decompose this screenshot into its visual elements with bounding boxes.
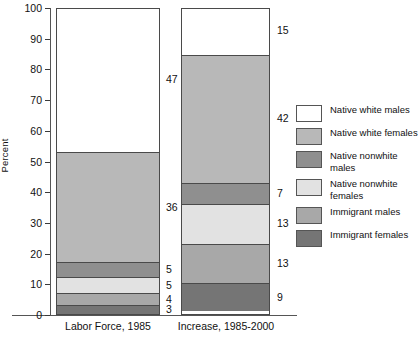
segment-value-label: 13	[277, 218, 289, 229]
legend-item[interactable]: Native white males	[296, 104, 419, 122]
legend-swatch-icon	[296, 128, 322, 145]
legend-swatch-icon	[296, 105, 322, 122]
y-axis-tick-mark	[45, 223, 50, 224]
y-axis-tick-label: 90	[12, 34, 42, 44]
bar-segment[interactable]	[182, 283, 269, 310]
y-axis-tick-label: 80	[12, 64, 42, 74]
legend-item-label: Native white females	[330, 127, 418, 139]
bar-segment[interactable]	[57, 152, 159, 262]
y-axis-tick-label: 0	[12, 310, 42, 320]
segment-value-label: 15	[277, 25, 289, 36]
segment-value-label: 47	[166, 74, 178, 85]
bar-segment[interactable]	[57, 262, 159, 277]
segment-value-label: 3	[166, 304, 172, 315]
bar-segment[interactable]	[57, 305, 159, 314]
legend-swatch-icon	[296, 151, 322, 168]
bar-increase-1985-2000[interactable]	[181, 8, 270, 315]
legend-item-label: Immigrant males	[330, 206, 400, 218]
segment-value-label: 36	[166, 202, 178, 213]
bar-segment[interactable]	[182, 9, 269, 55]
segment-value-label: 7	[277, 188, 283, 199]
bar-labor-force-1985[interactable]	[56, 8, 160, 315]
y-axis-title: Percent	[0, 126, 10, 186]
y-axis-tick-mark	[45, 8, 50, 9]
y-axis-tick-mark	[45, 315, 50, 316]
legend-item[interactable]: Native white females	[296, 127, 419, 145]
y-axis-tick-label: 60	[12, 126, 42, 136]
y-axis-tick-label: 10	[12, 279, 42, 289]
bar-segment[interactable]	[182, 55, 269, 183]
legend-item-label: Immigrant females	[330, 229, 408, 241]
y-axis-tick-mark	[45, 69, 50, 70]
y-axis-tick-mark	[45, 284, 50, 285]
bar-segment[interactable]	[182, 244, 269, 284]
segment-value-label: 9	[277, 292, 283, 303]
legend-swatch-icon	[296, 179, 322, 196]
legend-item[interactable]: Immigrant males	[296, 206, 419, 224]
segment-value-label: 5	[166, 280, 172, 291]
bar-segment[interactable]	[57, 9, 159, 152]
legend-item[interactable]: Native nonwhite males	[296, 150, 419, 173]
y-axis-tick-mark	[45, 254, 50, 255]
y-axis-tick-mark	[45, 162, 50, 163]
legend-item-label: Native nonwhite males	[330, 150, 419, 173]
y-axis-tick-mark	[45, 39, 50, 40]
y-axis-tick-label: 40	[12, 187, 42, 197]
x-axis-label-increase: Increase, 1985-2000	[164, 320, 288, 332]
legend-item-label: Native nonwhite females	[330, 178, 419, 201]
legend-item[interactable]: Native nonwhite females	[296, 178, 419, 201]
y-axis-tick-mark	[45, 100, 50, 101]
bar-segment[interactable]	[57, 277, 159, 292]
segment-value-label: 13	[277, 258, 289, 269]
y-axis-tick-label: 70	[12, 95, 42, 105]
legend-swatch-icon	[296, 207, 322, 224]
chart-legend: Native white malesNative white femalesNa…	[296, 104, 419, 252]
legend-swatch-icon	[296, 230, 322, 247]
x-axis-line	[12, 315, 297, 316]
y-axis-tick-mark	[45, 131, 50, 132]
y-axis-tick-label: 100	[12, 3, 42, 13]
y-axis-line	[50, 8, 51, 315]
segment-value-label: 5	[166, 264, 172, 275]
segment-value-label: 42	[277, 113, 289, 124]
bar-segment[interactable]	[182, 204, 269, 244]
y-axis-tick-label: 30	[12, 218, 42, 228]
y-axis-tick-mark	[45, 192, 50, 193]
legend-item-label: Native white males	[330, 104, 410, 116]
stacked-bar-chart: Percent 1009080706050403020100 47365543 …	[0, 0, 419, 342]
legend-item[interactable]: Immigrant females	[296, 229, 419, 247]
bar-segment[interactable]	[57, 293, 159, 305]
y-axis-tick-label: 20	[12, 249, 42, 259]
x-axis-label-labor-force: Labor Force, 1985	[42, 320, 174, 332]
bar-segment[interactable]	[182, 183, 269, 204]
y-axis-tick-label: 50	[12, 157, 42, 167]
